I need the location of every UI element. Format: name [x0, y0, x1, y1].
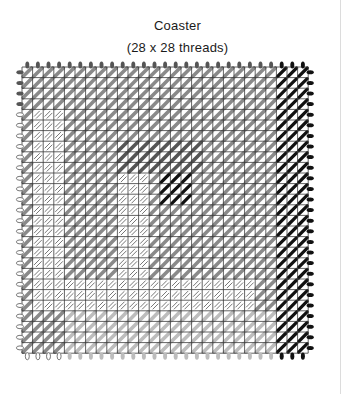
diagonal-stitches	[23, 68, 307, 352]
stitch-chart	[0, 0, 355, 394]
